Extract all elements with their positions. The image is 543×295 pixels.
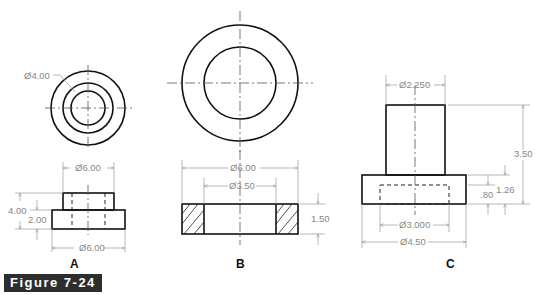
callout-dia-4: Ø4.00 — [24, 70, 50, 81]
dim-bottom-width: Ø6.00 — [79, 242, 105, 253]
dim-overall-height-c: 3.50 — [514, 148, 533, 159]
view-label-c: C — [446, 257, 455, 271]
view-c-front: Ø2.250 3.50 1.26 .80 Ø3.000 Ø4.50 — [362, 75, 533, 248]
technical-drawing: Ø4.00 Ø6.00 Ø6.00 4.00 2.00 A — [0, 0, 543, 295]
dim-flange-height: 1.26 — [496, 184, 515, 195]
dim-inner-diameter: Ø3.50 — [229, 180, 255, 191]
dim-flange-diameter: Ø4.50 — [400, 236, 426, 247]
hatch-right — [276, 204, 298, 234]
dim-counterbore-diameter: Ø3.000 — [399, 219, 430, 230]
dim-shaft-diameter: Ø2.250 — [399, 79, 430, 90]
dim-outer-diameter: Ø6.00 — [230, 162, 256, 173]
dim-counterbore-depth: .80 — [480, 189, 493, 200]
figure-caption-badge: Figure 7-24 — [4, 274, 102, 292]
dim-thickness: 1.50 — [311, 213, 330, 224]
hatch-left — [182, 204, 204, 234]
view-a-top: Ø4.00 — [24, 65, 132, 150]
dim-top-width: Ø6.00 — [75, 162, 101, 173]
view-label-b: B — [236, 257, 245, 271]
view-b-section: Ø6.00 Ø3.50 1.50 — [182, 150, 330, 245]
dim-base-height: 2.00 — [28, 214, 47, 225]
view-b-top — [167, 11, 313, 155]
dim-overall-height: 4.00 — [8, 205, 27, 216]
view-label-a: A — [70, 257, 79, 271]
view-a-front: Ø6.00 Ø6.00 4.00 2.00 — [8, 162, 125, 253]
